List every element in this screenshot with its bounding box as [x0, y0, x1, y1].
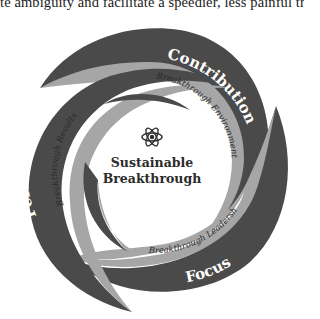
center-title: Sustainable Breakthrough	[102, 155, 202, 187]
center-title-line2: Breakthrough	[102, 171, 202, 187]
atom-icon	[141, 126, 163, 148]
center-title-line1: Sustainable	[102, 155, 202, 171]
